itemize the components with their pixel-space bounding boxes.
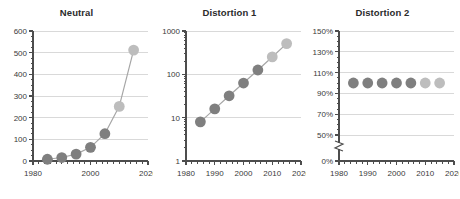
- data-point: [114, 101, 125, 112]
- chart-svg-neutral: 0100200300400500600198020002020: [0, 0, 153, 199]
- svg-text:50%: 50%: [317, 131, 333, 140]
- data-point: [99, 128, 110, 139]
- plot-area-distortion-1: 110100100019801990200020102020: [153, 0, 306, 199]
- svg-text:2010: 2010: [263, 169, 281, 178]
- svg-text:70%: 70%: [317, 110, 333, 119]
- svg-text:150%: 150%: [313, 27, 333, 36]
- data-point: [71, 149, 82, 160]
- svg-text:2020: 2020: [292, 169, 306, 178]
- svg-text:10: 10: [171, 114, 180, 123]
- data-point: [56, 152, 67, 163]
- svg-text:90%: 90%: [317, 89, 333, 98]
- svg-text:1000: 1000: [162, 27, 180, 36]
- chart-svg-distortion-2: 0%50%70%90%110%130%150%19801990200020102…: [306, 0, 459, 199]
- svg-text:100: 100: [14, 135, 28, 144]
- data-point: [420, 78, 431, 89]
- data-point: [128, 45, 139, 56]
- svg-text:1990: 1990: [359, 169, 377, 178]
- data-point: [85, 142, 96, 153]
- svg-text:500: 500: [14, 49, 28, 58]
- data-point: [42, 154, 53, 165]
- data-point: [434, 78, 445, 89]
- panel-neutral: Neutral 0100200300400500600198020002020: [0, 0, 153, 199]
- svg-text:1: 1: [176, 157, 181, 166]
- data-point: [377, 78, 388, 89]
- svg-text:600: 600: [14, 27, 28, 36]
- plot-area-distortion-2: 0%50%70%90%110%130%150%19801990200020102…: [306, 0, 459, 199]
- data-point: [209, 103, 220, 114]
- svg-text:300: 300: [14, 92, 28, 101]
- svg-text:100: 100: [167, 70, 181, 79]
- data-point: [405, 78, 416, 89]
- data-point: [391, 78, 402, 89]
- svg-text:130%: 130%: [313, 48, 333, 57]
- svg-text:0%: 0%: [321, 157, 333, 166]
- panel-distortion-2: Distortion 2 0%50%70%90%110%130%150%1980…: [306, 0, 459, 199]
- data-point: [281, 38, 292, 49]
- svg-text:1980: 1980: [24, 169, 42, 178]
- svg-text:400: 400: [14, 70, 28, 79]
- svg-text:2000: 2000: [388, 169, 406, 178]
- svg-text:0: 0: [23, 157, 28, 166]
- svg-text:200: 200: [14, 114, 28, 123]
- data-point: [362, 78, 373, 89]
- data-point: [238, 78, 249, 89]
- svg-text:2000: 2000: [235, 169, 253, 178]
- data-point: [348, 78, 359, 89]
- data-point: [267, 52, 278, 63]
- chart-svg-distortion-1: 110100100019801990200020102020: [153, 0, 306, 199]
- svg-text:1990: 1990: [206, 169, 224, 178]
- data-point: [252, 65, 263, 76]
- svg-text:2020: 2020: [445, 169, 459, 178]
- svg-text:1980: 1980: [177, 169, 195, 178]
- plot-area-neutral: 0100200300400500600198020002020: [0, 0, 153, 199]
- data-point: [224, 90, 235, 101]
- svg-text:1980: 1980: [330, 169, 348, 178]
- data-point: [195, 116, 206, 127]
- panel-distortion-1: Distortion 1 110100100019801990200020102…: [153, 0, 306, 199]
- svg-text:2010: 2010: [416, 169, 434, 178]
- svg-text:110%: 110%: [313, 69, 333, 78]
- svg-text:2000: 2000: [82, 169, 100, 178]
- svg-text:2020: 2020: [139, 169, 153, 178]
- three-panel-figure: Neutral 0100200300400500600198020002020 …: [0, 0, 460, 199]
